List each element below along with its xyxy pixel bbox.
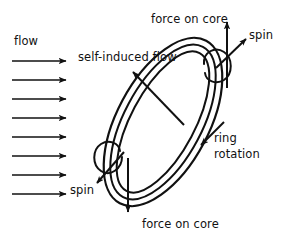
label-self-induced-flow: self-induced flow	[78, 52, 177, 64]
label-ring-rotation-line1: ring	[214, 133, 237, 145]
label-force-on-core-top: force on core	[151, 14, 228, 26]
label-flow: flow	[14, 36, 38, 48]
label-ring-rotation-line2: rotation	[214, 149, 260, 161]
vortex-ring-diagram: flow self-induced flow force on core spi…	[0, 0, 282, 241]
label-spin-bottom: spin	[70, 185, 94, 197]
diagram-canvas	[0, 0, 282, 241]
flow-arrow-group	[12, 61, 66, 194]
label-force-on-core-bottom: force on core	[142, 219, 219, 231]
label-spin-top: spin	[249, 30, 273, 42]
